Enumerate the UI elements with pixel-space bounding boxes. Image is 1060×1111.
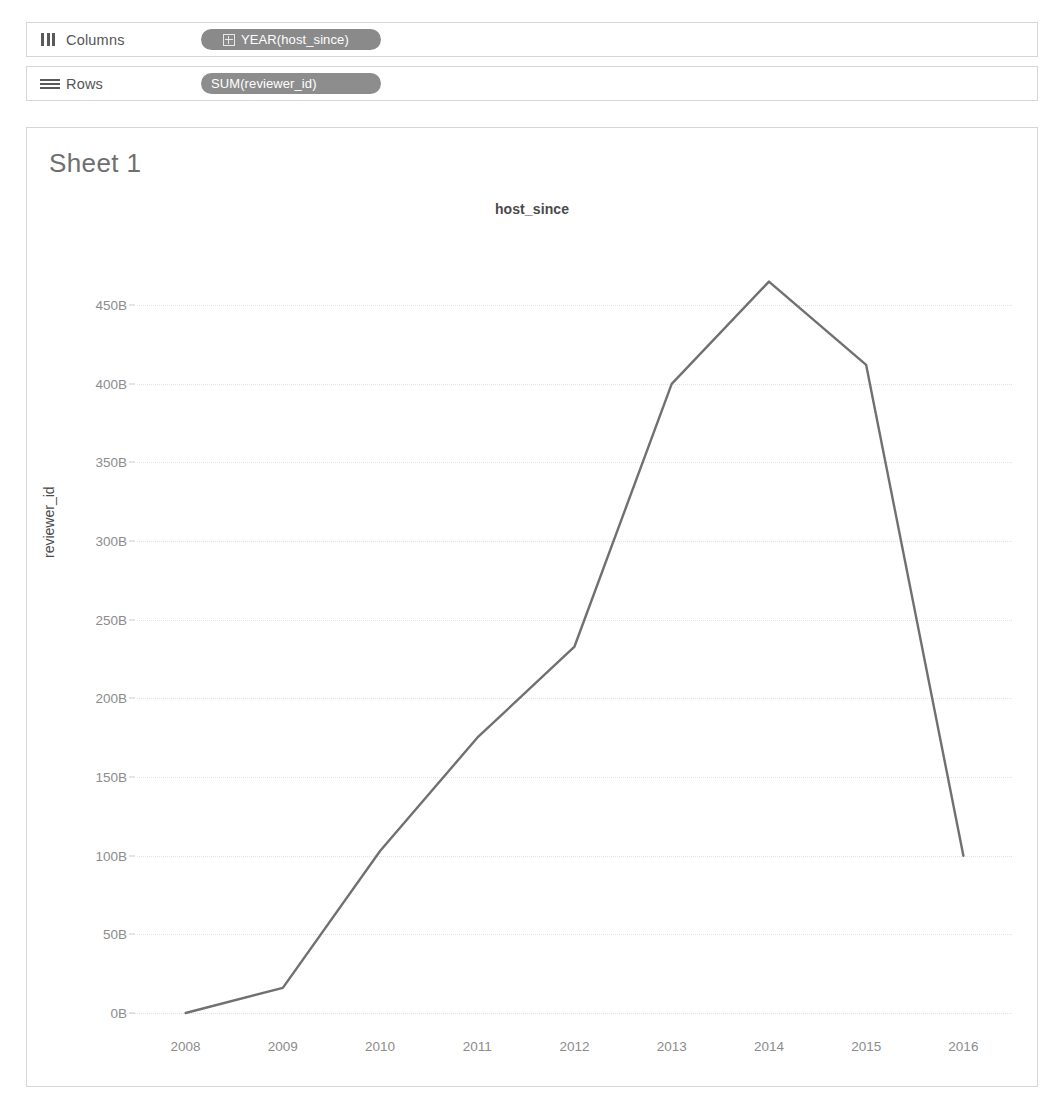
y-tick-mark	[129, 1013, 135, 1014]
pill-year-host-since[interactable]: YEAR(host_since)	[201, 29, 381, 50]
rows-shelf-label: Rows	[66, 76, 201, 92]
x-tick-label: 2012	[559, 1039, 589, 1054]
x-tick-label: 2008	[171, 1039, 201, 1054]
y-tick-mark	[129, 934, 135, 935]
series-path	[186, 282, 964, 1013]
pill-label: YEAR(host_since)	[241, 32, 349, 47]
columns-shelf-label: Columns	[66, 32, 201, 48]
y-tick-mark	[129, 777, 135, 778]
y-tick-mark	[129, 541, 135, 542]
y-tick-label: 300B	[95, 534, 127, 549]
x-tick-label: 2009	[268, 1039, 298, 1054]
pill-label: SUM(reviewer_id)	[211, 76, 317, 91]
y-tick-label: 250B	[95, 612, 127, 627]
y-tick-label: 400B	[95, 376, 127, 391]
tableau-worksheet: Columns YEAR(host_since) Rows SUM(review…	[0, 0, 1060, 1111]
x-tick-label: 2013	[657, 1039, 687, 1054]
y-tick-label: 50B	[103, 927, 127, 942]
y-tick-label: 200B	[95, 691, 127, 706]
y-tick-mark	[129, 619, 135, 620]
y-tick-label: 100B	[95, 848, 127, 863]
y-axis-title: reviewer_id	[41, 486, 57, 558]
view-pane: Sheet 1 host_since reviewer_id 0B50B100B…	[26, 127, 1038, 1087]
pill-sum-reviewer-id[interactable]: SUM(reviewer_id)	[201, 73, 381, 94]
gridline	[137, 1013, 1012, 1014]
y-tick-mark	[129, 305, 135, 306]
y-tick-mark	[129, 855, 135, 856]
y-tick-label: 350B	[95, 455, 127, 470]
rows-shelf[interactable]: Rows SUM(reviewer_id)	[26, 66, 1038, 101]
y-tick-label: 150B	[95, 770, 127, 785]
columns-shelf[interactable]: Columns YEAR(host_since)	[26, 22, 1038, 57]
x-tick-label: 2016	[948, 1039, 978, 1054]
plot-area[interactable]: 0B50B100B150B200B250B300B350B400B450B200…	[137, 258, 1012, 1013]
x-tick-label: 2010	[365, 1039, 395, 1054]
y-tick-label: 450B	[95, 298, 127, 313]
line-series[interactable]	[137, 258, 1012, 1013]
columns-icon	[37, 32, 59, 48]
rows-icon	[37, 76, 59, 92]
chart-title: host_since	[27, 201, 1037, 217]
y-tick-mark	[129, 462, 135, 463]
page-title: Sheet 1	[49, 148, 141, 179]
x-tick-label: 2014	[754, 1039, 784, 1054]
x-tick-label: 2011	[463, 1039, 492, 1054]
x-tick-label: 2015	[851, 1039, 881, 1054]
y-tick-label: 0B	[110, 1006, 127, 1021]
expand-plus-icon[interactable]	[223, 34, 235, 46]
y-tick-mark	[129, 698, 135, 699]
shelf-area: Columns YEAR(host_since) Rows SUM(review…	[26, 22, 1038, 110]
y-tick-mark	[129, 383, 135, 384]
